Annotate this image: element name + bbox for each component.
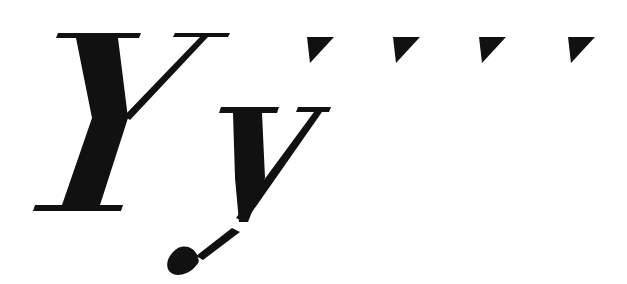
uppercase-y-glyph: [33, 33, 230, 211]
lowercase-y-glyph: [167, 107, 331, 275]
triangle-mark-3: [479, 37, 506, 63]
glyph-specimen: Y y: [0, 0, 627, 284]
triangle-mark-1: [307, 37, 334, 63]
glyph-drawing: [0, 0, 627, 284]
triangle-mark-4: [568, 37, 595, 63]
triangle-mark-2: [393, 37, 420, 63]
triangle-marks: [307, 37, 595, 63]
